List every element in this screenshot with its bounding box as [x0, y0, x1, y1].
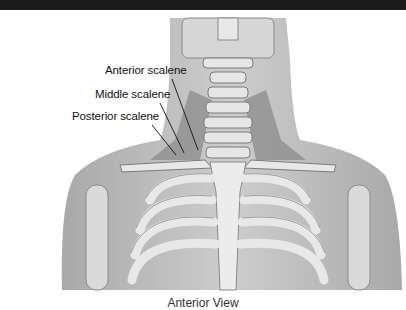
anatomy-illustration: Anterior scalene Middle scalene Posterio…	[0, 10, 406, 304]
humerus-right	[348, 185, 370, 290]
neck-thorax-illustration	[0, 10, 406, 304]
top-bar	[0, 0, 406, 10]
label-anterior-scalene: Anterior scalene	[105, 64, 187, 76]
label-posterior-scalene: Posterior scalene	[72, 110, 159, 122]
humerus-left	[86, 185, 108, 290]
figure-caption: Anterior View	[0, 296, 406, 310]
label-middle-scalene: Middle scalene	[95, 88, 170, 100]
